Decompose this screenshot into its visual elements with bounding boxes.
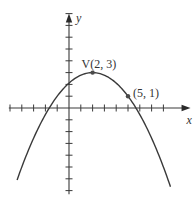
point-5-1 [126, 94, 130, 98]
x-axis-arrow-icon [182, 105, 191, 111]
y-axis-arrow-icon [66, 14, 72, 23]
y-axis-label: y [75, 11, 82, 25]
point-label: (5, 1) [133, 86, 159, 100]
x-axis-label: x [186, 113, 193, 127]
parabola-graph: V(2, 3) (5, 1) x y [0, 0, 196, 198]
vertex-point [90, 70, 94, 74]
vertex-label: V(2, 3) [82, 57, 117, 71]
axis-ticks [10, 14, 163, 191]
